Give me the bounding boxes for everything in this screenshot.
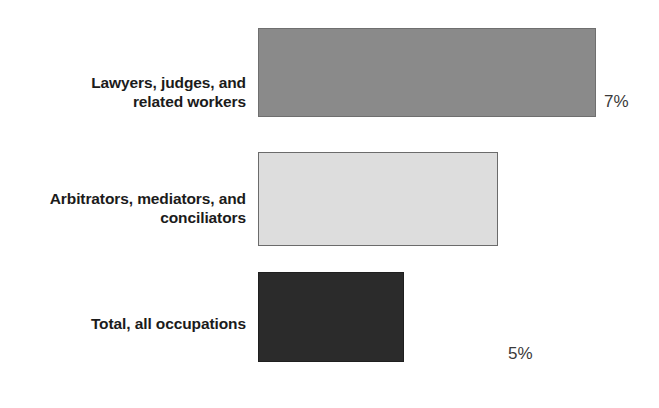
bar-value-label: 7% <box>604 93 629 110</box>
bar-category-label: Total, all occupations <box>16 314 246 333</box>
bar-row-lawyers: Lawyers, judges, and related workers 7% <box>0 28 659 117</box>
bar-row-total: Total, all occupations 3% <box>0 272 659 362</box>
bar-chart: Lawyers, judges, and related workers 7% … <box>0 0 659 408</box>
bar-rect-arbitrators <box>258 152 498 246</box>
bar-rect-lawyers <box>258 28 596 117</box>
bar-category-label: Lawyers, judges, and related workers <box>16 73 246 111</box>
bar-rect-total <box>258 272 404 362</box>
bar-row-arbitrators: Arbitrators, mediators, and conciliators… <box>0 152 659 246</box>
bar-category-label: Arbitrators, mediators, and conciliators <box>16 189 246 227</box>
